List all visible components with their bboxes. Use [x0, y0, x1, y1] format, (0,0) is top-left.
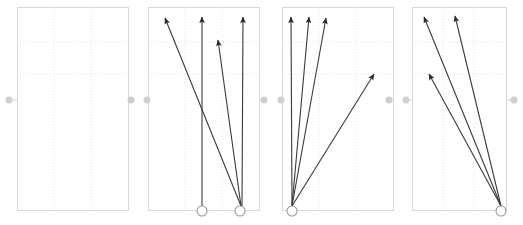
origin-marker[interactable]	[235, 206, 245, 216]
panels-layer	[17, 7, 507, 216]
connector-dot	[511, 97, 518, 104]
panel-3	[282, 7, 394, 216]
connector-dot	[6, 97, 13, 104]
connector-dot	[128, 97, 135, 104]
panel-frame	[18, 8, 129, 211]
panel-2	[148, 7, 260, 216]
connector-dot	[386, 97, 393, 104]
figure-canvas	[0, 0, 523, 225]
connector-dot	[278, 97, 285, 104]
connector-dot	[261, 97, 268, 104]
vector-field-figure	[0, 0, 523, 225]
connector-dot	[403, 97, 410, 104]
panel-1	[17, 7, 129, 211]
panel-frame	[413, 8, 507, 211]
origin-marker[interactable]	[287, 206, 297, 216]
panel-4	[412, 7, 507, 216]
origin-marker[interactable]	[496, 206, 506, 216]
panel-frame	[283, 8, 394, 211]
connector-dot	[144, 97, 151, 104]
origin-marker[interactable]	[197, 206, 207, 216]
